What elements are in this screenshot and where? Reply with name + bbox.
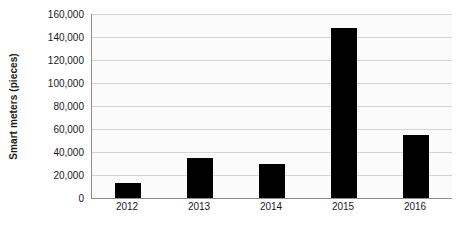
- bar-slot: [164, 14, 236, 198]
- y-tick-label: 100,000: [48, 78, 84, 89]
- y-tick-label: 120,000: [48, 55, 84, 66]
- y-tick-label: 20,000: [53, 170, 84, 181]
- x-tick-label: 2015: [307, 201, 379, 212]
- y-tick-label: 60,000: [53, 124, 84, 135]
- y-tick-label: 80,000: [53, 101, 84, 112]
- plot-area: [91, 14, 452, 199]
- bar-slot: [236, 14, 308, 198]
- y-axis-tick-labels: 020,00040,00060,00080,000100,000120,0001…: [26, 14, 88, 198]
- y-tick-label: 140,000: [48, 32, 84, 43]
- x-tick-label: 2016: [379, 201, 451, 212]
- bar: [115, 183, 141, 198]
- bar-slot: [380, 14, 452, 198]
- bar: [259, 164, 285, 199]
- bar: [187, 158, 213, 198]
- x-axis-tick-labels: 20122013201420152016: [91, 201, 451, 212]
- bar-slot: [308, 14, 380, 198]
- x-tick-label: 2013: [163, 201, 235, 212]
- y-axis-title: Smart meters (pieces): [0, 0, 26, 212]
- bars-layer: [92, 14, 452, 198]
- x-tick-label: 2012: [91, 201, 163, 212]
- y-tick-label: 0: [78, 193, 84, 204]
- gridline: [92, 198, 452, 199]
- y-tick-label: 160,000: [48, 9, 84, 20]
- y-axis-title-label: Smart meters (pieces): [8, 53, 19, 160]
- y-tick-label: 40,000: [53, 147, 84, 158]
- bar: [331, 28, 357, 198]
- bar-slot: [92, 14, 164, 198]
- bar-chart: Smart meters (pieces) 020,00040,00060,00…: [0, 0, 468, 240]
- bar: [403, 135, 429, 198]
- x-tick-label: 2014: [235, 201, 307, 212]
